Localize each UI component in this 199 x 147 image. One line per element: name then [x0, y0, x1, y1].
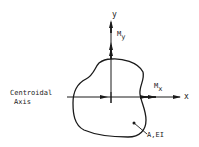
section-properties-label: A,EI [147, 131, 164, 139]
centroidal-axis-label-line2: Axis [14, 98, 31, 106]
cross-section-diagram: y My Mx x Centroidal Axis A,EI [0, 0, 199, 147]
moment-x-label: Mx [154, 82, 162, 93]
x-axis-arrowhead-center [100, 95, 108, 99]
y-axis-label: y [112, 10, 117, 19]
moment-y-label: My [117, 30, 125, 41]
centroidal-axis-label-line1: Centroidal [10, 89, 52, 97]
cross-section-outline [73, 59, 146, 137]
x-axis-arrowhead-end [173, 95, 181, 99]
x-axis-label: x [184, 92, 189, 101]
